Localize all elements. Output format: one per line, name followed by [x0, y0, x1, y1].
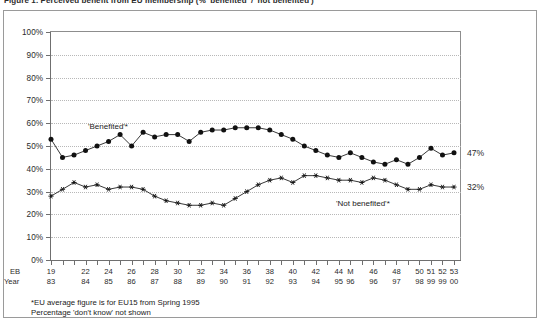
x-axis-tick	[63, 261, 64, 265]
footnote-line-2: Percentage 'don't know' not shown	[31, 308, 200, 318]
footnote-line-1: *EU average figure is for EU15 from Spri…	[31, 298, 200, 308]
data-point-marker	[256, 125, 261, 130]
x-axis-label-year: 00	[443, 277, 465, 287]
data-point-marker	[371, 176, 376, 181]
series-lines	[50, 31, 461, 261]
data-point-marker	[210, 128, 215, 133]
data-point-marker	[382, 178, 387, 183]
x-axis-label-year: 85	[98, 277, 120, 287]
x-axis-label-year: 97	[385, 277, 407, 287]
chart-frame: 0%10%20%30%40%50%60%70%80%90%100% 198322…	[3, 10, 537, 318]
data-point-marker	[152, 134, 157, 139]
x-axis-tick	[132, 261, 133, 265]
data-point-marker	[244, 125, 249, 130]
data-point-marker	[106, 139, 111, 144]
data-point-marker	[348, 150, 353, 155]
data-point-marker	[198, 203, 203, 208]
data-point-marker	[336, 178, 341, 183]
x-axis-label-year: 86	[121, 277, 143, 287]
x-axis-tick	[373, 261, 374, 265]
x-axis-label-eb: 19	[40, 267, 62, 277]
x-axis-label-year: 96	[362, 277, 384, 287]
data-point-marker	[221, 128, 226, 133]
data-point-marker	[359, 180, 364, 185]
data-point-marker	[233, 125, 238, 130]
x-axis-label-year: 91	[236, 277, 258, 287]
plot-area: 0%10%20%30%40%50%60%70%80%90%100% 198322…	[50, 31, 461, 261]
x-axis-tick	[212, 261, 213, 265]
x-axis-tick	[454, 261, 455, 265]
x-axis-tick	[109, 261, 110, 265]
data-point-marker	[72, 153, 77, 158]
x-axis-label-column: 5300	[443, 267, 465, 286]
x-axis-label-eb: 22	[75, 267, 97, 277]
y-axis-label: 70%	[3, 96, 43, 105]
series-label-benefited: 'Benefited'*	[88, 122, 128, 131]
end-value-benefited: 47%	[467, 148, 484, 158]
x-axis-tick	[74, 261, 75, 265]
data-point-marker	[94, 183, 99, 188]
x-axis-label-year: 89	[190, 277, 212, 287]
y-axis-label: 80%	[3, 73, 43, 82]
x-axis-label-year: 88	[167, 277, 189, 287]
data-point-marker	[129, 144, 134, 149]
x-axis-label-eb: 32	[190, 267, 212, 277]
x-axis-label-year: 90	[213, 277, 235, 287]
x-axis-label-column: 3892	[259, 267, 281, 286]
x-axis-tick	[408, 261, 409, 265]
data-point-marker	[210, 201, 215, 206]
y-axis-label: 100%	[3, 28, 43, 37]
x-axis-label-eb: 53	[443, 267, 465, 277]
data-point-marker	[359, 155, 364, 160]
x-axis-label-year: 94	[305, 277, 327, 287]
x-axis-label-eb: 36	[236, 267, 258, 277]
x-axis-tick	[304, 261, 305, 265]
data-point-marker	[417, 155, 422, 160]
x-axis-label-column: 3289	[190, 267, 212, 286]
x-axis-label-year: 93	[282, 277, 304, 287]
data-point-marker	[175, 132, 180, 137]
x-axis-label-year: 84	[75, 277, 97, 287]
x-axis-label-eb: M	[339, 267, 361, 277]
data-point-marker	[175, 201, 180, 206]
x-axis-tick	[339, 261, 340, 265]
data-point-marker	[106, 187, 111, 192]
x-axis-tick	[281, 261, 282, 265]
x-axis-tick	[293, 261, 294, 265]
data-point-marker	[440, 153, 445, 158]
data-point-marker	[405, 187, 410, 192]
x-axis-label-eb: 34	[213, 267, 235, 277]
x-axis-label-column: 4897	[385, 267, 407, 286]
x-axis-tick	[327, 261, 328, 265]
x-axis-label-column: 2485	[98, 267, 120, 286]
data-point-marker	[440, 185, 445, 190]
series-path	[51, 128, 454, 164]
x-axis-label-year: 96	[339, 277, 361, 287]
x-axis-tick	[97, 261, 98, 265]
data-point-marker	[164, 198, 169, 203]
x-axis-tick	[155, 261, 156, 265]
x-axis-tick	[385, 261, 386, 265]
x-axis-label-eb: 30	[167, 267, 189, 277]
data-point-marker	[187, 203, 192, 208]
data-point-marker	[49, 137, 54, 142]
x-axis-label-eb: 40	[282, 267, 304, 277]
x-axis-label-eb: 48	[385, 267, 407, 277]
y-axis-label: 10%	[3, 233, 43, 242]
data-point-marker	[118, 132, 123, 137]
x-axis-label-eb: 28	[144, 267, 166, 277]
data-point-marker	[302, 144, 307, 149]
x-axis-tick	[201, 261, 202, 265]
y-axis-label: 20%	[3, 210, 43, 219]
data-point-marker	[83, 185, 88, 190]
x-axis-tick	[419, 261, 420, 265]
data-point-marker	[428, 146, 433, 151]
x-axis-tick	[120, 261, 121, 265]
x-axis-tick	[270, 261, 271, 265]
data-point-marker	[348, 178, 353, 183]
x-axis-label-eb: 26	[121, 267, 143, 277]
data-point-marker	[95, 144, 100, 149]
data-point-marker	[279, 176, 284, 181]
data-point-marker	[325, 153, 330, 158]
x-axis-label-year: 83	[40, 277, 62, 287]
